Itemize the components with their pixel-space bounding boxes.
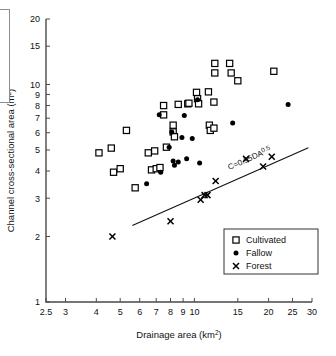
legend-marker-filled-circle xyxy=(234,251,239,256)
fit-label-exponent: 0.5 xyxy=(260,144,271,154)
scan-edge-artifact xyxy=(0,9,10,103)
data-point xyxy=(193,89,199,95)
data-point xyxy=(211,125,217,131)
data-point xyxy=(171,158,176,163)
y-tick-label: 8 xyxy=(35,101,40,111)
y-tick-label: 7 xyxy=(35,113,40,123)
x-tick-label: 25 xyxy=(287,307,297,317)
data-point xyxy=(179,135,184,140)
data-point xyxy=(157,164,163,170)
y-tick-label: 3 xyxy=(35,194,40,204)
y-tick-label: 9 xyxy=(35,90,40,100)
data-point xyxy=(167,145,172,150)
series-forest xyxy=(109,154,274,240)
fit-line-label-text: C=0.95DA0.5 xyxy=(226,144,273,172)
data-point xyxy=(145,150,151,156)
fit-line xyxy=(132,148,308,226)
x-axis-title-tail: ) xyxy=(219,329,222,340)
data-point xyxy=(144,181,149,186)
x-tick-label: 20 xyxy=(264,307,274,317)
data-point xyxy=(158,170,163,175)
data-point xyxy=(117,166,123,172)
legend[interactable]: CultivatedFallowForest xyxy=(224,229,318,274)
data-point xyxy=(161,102,167,108)
y-tick-label: 5 xyxy=(35,145,40,155)
y-axis-title: Channel cross-sectional area (m2) xyxy=(5,89,16,233)
data-point xyxy=(170,122,176,128)
x-tick-label: 8 xyxy=(168,307,173,317)
regression-line-group: C=0.95DA0.5 xyxy=(132,144,308,226)
y-tick-label: 15 xyxy=(30,41,40,51)
data-point xyxy=(168,218,174,224)
data-point xyxy=(176,160,181,165)
y-tick-label: 20 xyxy=(30,14,40,24)
x-axis-title-main: Drainage area (km xyxy=(136,329,215,340)
data-point xyxy=(211,99,217,105)
series-cultivated xyxy=(96,60,277,191)
x-tick-label: 3 xyxy=(63,307,68,317)
x-tick-label: 10 xyxy=(189,307,199,317)
figure-container: 2.534567891015202530123456789101520 C=0.… xyxy=(0,0,336,356)
scatter-plot: 2.534567891015202530123456789101520 C=0.… xyxy=(0,0,336,356)
data-point xyxy=(96,150,102,156)
data-point xyxy=(228,70,234,76)
data-point xyxy=(184,156,189,161)
data-point xyxy=(132,185,138,191)
data-point xyxy=(269,154,275,160)
data-point xyxy=(286,102,291,107)
data-point xyxy=(195,97,200,102)
x-tick-label: 4 xyxy=(94,307,99,317)
data-point xyxy=(171,134,177,140)
x-tick-label: 15 xyxy=(233,307,243,317)
x-tick-label: 2.5 xyxy=(40,307,53,317)
legend-marker-open-square xyxy=(233,237,239,243)
data-point xyxy=(227,60,233,66)
y-tick-label: 4 xyxy=(35,166,40,176)
data-point xyxy=(197,161,202,166)
data-point xyxy=(169,129,174,134)
legend-label: Forest xyxy=(246,261,272,271)
data-point xyxy=(212,60,218,66)
fit-line-label: C=0.95DA0.5 xyxy=(226,144,273,172)
legend-label: Cultivated xyxy=(246,235,286,245)
data-point xyxy=(157,112,162,117)
y-axis-title-main: Channel cross-sectional area (m xyxy=(5,95,16,232)
data-point xyxy=(212,70,218,76)
data-point xyxy=(213,178,219,184)
data-point xyxy=(182,113,187,118)
x-tick-label: 9 xyxy=(181,307,186,317)
x-tick-label: 30 xyxy=(307,307,317,317)
series-fallow xyxy=(144,97,290,186)
y-axis-title-text: Channel cross-sectional area (m2) xyxy=(5,89,16,233)
data-point xyxy=(152,148,158,154)
data-point xyxy=(172,163,177,168)
data-point xyxy=(190,136,195,141)
legend-label: Fallow xyxy=(246,248,273,258)
x-tick-label: 5 xyxy=(118,307,123,317)
data-point xyxy=(186,100,192,106)
data-point xyxy=(110,169,116,175)
data-point xyxy=(123,127,129,133)
data-point xyxy=(175,101,181,107)
y-tick-label: 1 xyxy=(35,297,40,307)
y-tick-label: 2 xyxy=(35,232,40,242)
data-point xyxy=(109,234,115,240)
fit-label-main: C=0.95DA xyxy=(227,148,265,171)
x-tick-label: 7 xyxy=(154,307,159,317)
data-point xyxy=(271,68,277,74)
y-tick-label: 10 xyxy=(30,80,40,90)
x-tick-label: 6 xyxy=(137,307,142,317)
x-axis-title: Drainage area (km2) xyxy=(136,329,221,340)
data-point xyxy=(205,89,211,95)
y-tick-label: 6 xyxy=(35,128,40,138)
data-point xyxy=(230,121,235,126)
data-point xyxy=(235,78,241,84)
data-point xyxy=(108,145,114,151)
